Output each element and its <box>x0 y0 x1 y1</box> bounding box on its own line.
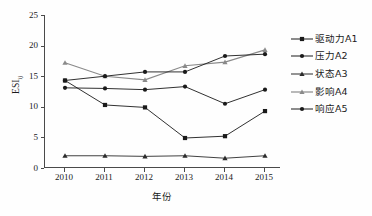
x-tick-mark <box>184 168 185 172</box>
x-tick-label: 2012 <box>124 173 164 182</box>
data-point-marker <box>223 102 227 106</box>
x-tick-label: 2014 <box>204 173 244 182</box>
y-axis-title: ESIij <box>11 55 25 115</box>
x-tick-mark <box>264 168 265 172</box>
line-chart: 0510152025 201020112012201320142015 年份 E… <box>0 0 372 216</box>
data-point-marker <box>103 86 107 90</box>
data-point-marker <box>143 88 147 92</box>
series-line <box>65 50 265 80</box>
y-tick-mark <box>41 168 45 169</box>
legend-label: 影响A4 <box>313 87 348 97</box>
legend-marker-icon <box>291 103 313 115</box>
y-tick-label: 20 <box>14 41 38 50</box>
data-point-marker <box>63 86 67 90</box>
data-point-marker <box>143 105 147 109</box>
data-point-marker <box>143 70 147 74</box>
data-point-marker <box>223 54 227 58</box>
series-canvas <box>45 15 281 168</box>
legend-label: 压力A2 <box>313 51 348 61</box>
y-axis-title-subscript: ij <box>16 76 23 80</box>
x-tick-mark <box>104 168 105 172</box>
legend-item-1[interactable]: 驱动力A1 <box>291 30 371 48</box>
series-line <box>65 87 265 104</box>
data-point-marker <box>103 103 107 107</box>
legend-marker-icon <box>291 50 313 62</box>
y-axis-title-text: ESI <box>11 80 21 94</box>
series-3 <box>62 153 267 160</box>
data-point-marker <box>62 60 67 65</box>
series-line <box>65 54 265 80</box>
y-tick-label: 25 <box>14 11 38 20</box>
x-tick-label: 2011 <box>84 173 124 182</box>
series-5 <box>63 52 267 83</box>
data-point-marker <box>300 37 304 41</box>
data-point-marker <box>300 54 304 58</box>
y-tick-label: 0 <box>14 164 38 173</box>
legend-label: 状态A3 <box>313 69 348 79</box>
legend-marker-icon <box>291 33 313 45</box>
x-tick-mark <box>144 168 145 172</box>
data-point-marker <box>262 47 267 52</box>
data-point-marker <box>263 109 267 113</box>
x-tick-label: 2013 <box>164 173 204 182</box>
data-point-marker <box>263 52 267 56</box>
legend-label: 响应A5 <box>313 104 348 114</box>
x-tick-label: 2010 <box>44 173 84 182</box>
data-point-marker <box>103 74 107 78</box>
series-1 <box>63 78 267 140</box>
data-point-marker <box>300 107 304 111</box>
series-4 <box>62 47 267 82</box>
series-line <box>65 80 265 138</box>
data-point-marker <box>63 78 67 82</box>
data-point-marker <box>183 85 187 89</box>
legend-marker-icon <box>291 86 313 98</box>
series-line <box>65 156 265 158</box>
legend-label: 驱动力A1 <box>313 34 358 44</box>
series-2 <box>63 85 267 106</box>
data-point-marker <box>183 70 187 74</box>
legend-item-2[interactable]: 压力A2 <box>291 48 371 66</box>
x-tick-label: 2015 <box>244 173 284 182</box>
y-tick-label: 5 <box>14 133 38 142</box>
data-point-marker <box>223 134 227 138</box>
plot-area <box>44 15 280 168</box>
legend-item-4[interactable]: 影响A4 <box>291 83 371 101</box>
legend: 驱动力A1压力A2状态A3影响A4响应A5 <box>291 30 371 118</box>
x-tick-mark <box>224 168 225 172</box>
x-axis-title: 年份 <box>44 192 280 202</box>
legend-marker-icon <box>291 68 313 80</box>
data-point-marker <box>263 88 267 92</box>
legend-item-5[interactable]: 响应A5 <box>291 100 371 118</box>
legend-item-3[interactable]: 状态A3 <box>291 65 371 83</box>
data-point-marker <box>183 136 187 140</box>
x-tick-mark <box>64 168 65 172</box>
